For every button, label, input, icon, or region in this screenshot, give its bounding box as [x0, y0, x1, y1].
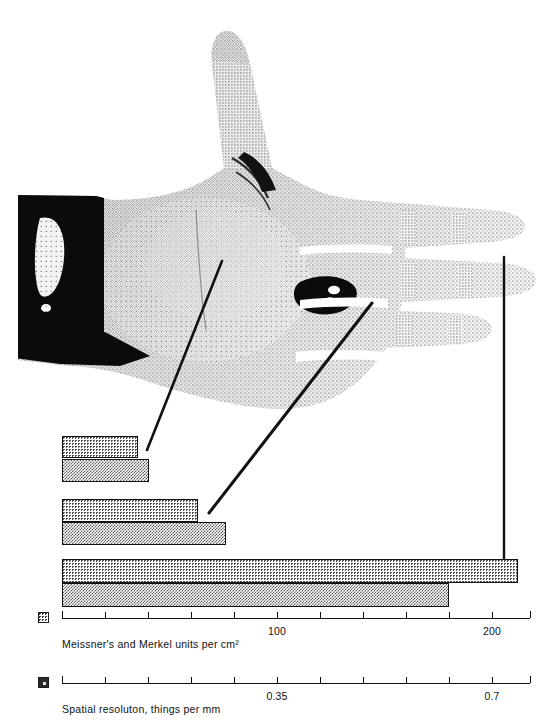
axis-tick — [148, 612, 149, 618]
axis-tick — [449, 612, 450, 618]
axis-tick — [449, 677, 450, 683]
axis-spatial-resolution: 0.35 0.7 — [62, 683, 530, 684]
axis-receptor-density: 100 200 — [62, 618, 530, 619]
axis-tick — [406, 677, 407, 683]
axis-tick — [277, 677, 278, 683]
axis-tick-label-07: 0.7 — [484, 690, 499, 702]
axis-tick — [105, 612, 106, 618]
axis-tick — [234, 677, 235, 683]
legend-swatch-spatial-resolution — [38, 677, 49, 688]
axis-tick — [406, 612, 407, 618]
bar-finger-base-receptor-density — [62, 499, 198, 522]
axis-tick — [530, 676, 531, 683]
sensory-receptor-density-figure: 100 200 Meissner's and Merkel units per … — [0, 0, 549, 728]
axis-tick — [320, 612, 321, 618]
bar-palm-spatial-resolution — [62, 459, 149, 482]
legend-swatch-receptor-density — [38, 612, 49, 623]
axis-tick — [363, 612, 364, 618]
axis-tick — [320, 677, 321, 683]
axis-tick-label-100: 100 — [268, 625, 286, 637]
axis-line — [62, 683, 530, 684]
bar-palm-receptor-density — [62, 436, 138, 458]
axis-tick — [277, 612, 278, 618]
axis-tick-label-035: 0.35 — [266, 690, 287, 702]
axis-tick — [105, 677, 106, 683]
axis-tick-label-200: 200 — [483, 625, 501, 637]
axis-tick — [148, 677, 149, 683]
bar-finger-base-spatial-resolution — [62, 522, 226, 545]
axis-tick — [191, 612, 192, 618]
axis-tick — [62, 611, 63, 618]
axis-tick — [191, 677, 192, 683]
bar-fingertip-spatial-resolution — [62, 583, 449, 607]
axis-tick — [492, 677, 493, 683]
axis-tick — [530, 611, 531, 618]
bar-fingertip-receptor-density — [62, 559, 518, 583]
axis-tick — [363, 677, 364, 683]
axis-caption-spatial-resolution: Spatial resoluton, things per mm — [62, 703, 221, 715]
axis-line — [62, 618, 530, 619]
axis-caption-receptor-density: Meissner's and Merkel units per cm² — [62, 638, 239, 650]
axis-tick — [492, 612, 493, 618]
axis-tick — [234, 612, 235, 618]
axis-tick — [62, 676, 63, 683]
